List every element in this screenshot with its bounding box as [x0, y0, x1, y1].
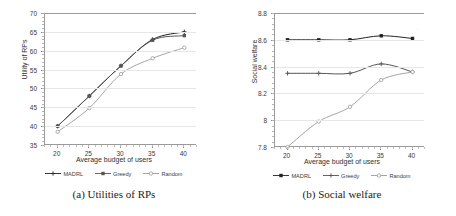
- y-minor-tick: [272, 104, 274, 105]
- x-minor-tick: [114, 145, 115, 147]
- legend-label: Greedy: [113, 171, 131, 177]
- y-minor-tick: [42, 104, 44, 105]
- y-minor-tick: [42, 122, 44, 123]
- y-minor-tick: [42, 24, 44, 25]
- x-minor-tick: [287, 147, 288, 149]
- x-minor-tick: [318, 147, 319, 149]
- legend-item-greedy[interactable]: Greedy: [95, 170, 131, 177]
- data-point-random: [151, 57, 154, 60]
- gridline-horizontal: [45, 88, 196, 89]
- x-axis-title-a: Average budget of users: [0, 156, 228, 163]
- series-line-madrl: [58, 32, 185, 126]
- x-minor-tick: [424, 147, 425, 149]
- gridline-horizontal: [45, 126, 196, 127]
- y-minor-tick: [42, 13, 44, 14]
- x-minor-tick: [196, 145, 197, 147]
- y-minor-tick: [42, 130, 44, 131]
- data-point-greedy: [285, 71, 289, 75]
- gridline-horizontal: [45, 70, 196, 71]
- x-minor-tick: [274, 147, 275, 149]
- y-minor-tick: [272, 109, 274, 110]
- y-minor-tick: [42, 32, 44, 33]
- x-minor-tick: [293, 147, 294, 149]
- y-minor-tick: [42, 100, 44, 101]
- legend-label: Greedy: [341, 173, 359, 179]
- y-tick-label: 8: [228, 117, 267, 124]
- data-point-greedy: [379, 62, 383, 66]
- scan-artifact-b: ʼ: [417, 27, 418, 33]
- y-minor-tick: [272, 131, 274, 132]
- gridline-horizontal: [275, 93, 424, 94]
- y-minor-tick: [272, 126, 274, 127]
- legend-swatch-circle-icon: [371, 172, 387, 179]
- x-minor-tick: [44, 145, 45, 147]
- y-minor-tick: [42, 92, 44, 93]
- y-minor-tick: [42, 28, 44, 29]
- caption-a: (a) Utilities of RPs: [0, 188, 228, 200]
- gridline-horizontal: [275, 40, 424, 41]
- x-minor-tick: [107, 145, 108, 147]
- y-minor-tick: [42, 107, 44, 108]
- legend-item-random[interactable]: Random: [143, 170, 182, 177]
- x-minor-tick: [280, 147, 281, 149]
- y-minor-tick: [272, 13, 274, 14]
- x-minor-tick: [158, 145, 159, 147]
- gridline-horizontal: [45, 51, 196, 52]
- y-tick-label: 50: [0, 85, 37, 92]
- y-minor-tick: [42, 81, 44, 82]
- x-minor-tick: [101, 145, 102, 147]
- y-tick-label: 55: [0, 66, 37, 73]
- legend-item-madrl[interactable]: MADRL: [273, 172, 311, 179]
- x-minor-tick: [120, 145, 121, 147]
- x-minor-tick: [126, 145, 127, 147]
- x-minor-tick: [312, 147, 313, 149]
- x-minor-tick: [171, 145, 172, 147]
- x-minor-tick: [76, 145, 77, 147]
- gridline-horizontal: [275, 120, 424, 121]
- data-point-random: [348, 105, 351, 108]
- y-minor-tick: [272, 56, 274, 57]
- x-minor-tick: [164, 145, 165, 147]
- panel-utilities-of-rps: Utility of RPs 3540455055606570 20253035…: [0, 0, 228, 216]
- data-point-greedy: [151, 38, 154, 41]
- y-minor-tick: [42, 137, 44, 138]
- y-minor-tick: [42, 62, 44, 63]
- x-minor-tick: [190, 145, 191, 147]
- y-minor-tick: [42, 43, 44, 44]
- y-tick-label: 8.8: [228, 10, 267, 17]
- legend-swatch-cross-icon: [45, 170, 61, 177]
- legend-item-madrl[interactable]: MADRL: [45, 170, 83, 177]
- y-minor-tick: [272, 67, 274, 68]
- y-minor-tick: [42, 21, 44, 22]
- y-minor-tick: [272, 72, 274, 73]
- series-line-random: [58, 48, 185, 132]
- legend-item-greedy[interactable]: Greedy: [323, 172, 359, 179]
- y-minor-tick: [42, 111, 44, 112]
- y-minor-tick: [42, 39, 44, 40]
- y-minor-tick: [272, 93, 274, 94]
- y-minor-tick: [272, 99, 274, 100]
- y-tick-label: 70: [0, 10, 37, 17]
- x-minor-tick: [177, 145, 178, 147]
- x-axis-title-b: Average budget of users: [228, 158, 456, 165]
- x-minor-tick: [183, 145, 184, 147]
- y-minor-tick: [272, 142, 274, 143]
- legend-swatch-square-icon: [95, 170, 111, 177]
- legend-a: MADRLGreedyRandom: [0, 170, 228, 177]
- y-minor-tick: [42, 126, 44, 127]
- x-minor-tick: [355, 147, 356, 149]
- x-minor-tick: [139, 145, 140, 147]
- y-minor-tick: [272, 29, 274, 30]
- y-minor-tick: [42, 47, 44, 48]
- legend-item-random[interactable]: Random: [371, 172, 410, 179]
- data-point-greedy: [119, 64, 122, 67]
- legend-swatch-circle-icon: [143, 170, 159, 177]
- y-minor-tick: [42, 134, 44, 135]
- y-minor-tick: [42, 85, 44, 86]
- x-minor-tick: [95, 145, 96, 147]
- x-minor-tick: [418, 147, 419, 149]
- x-minor-tick: [57, 145, 58, 147]
- legend-b: MADRLGreedyRandom: [228, 172, 456, 179]
- y-minor-tick: [272, 40, 274, 41]
- data-point-madrl: [380, 34, 383, 37]
